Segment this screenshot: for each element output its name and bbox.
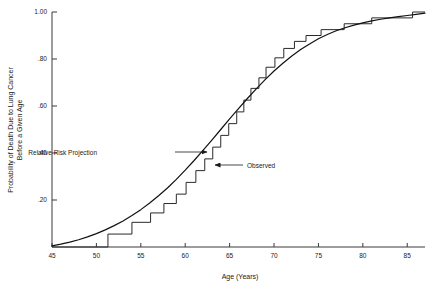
annotations: Relative Risk ProjectionObserved: [28, 149, 275, 169]
x-tick-label: 80: [359, 252, 367, 259]
x-tick-label: 60: [182, 252, 190, 259]
x-axis-title: Age (Years): [222, 273, 259, 281]
y-axis-title-line1: Probability of Death Due to Lung Cancer: [7, 66, 15, 192]
y-tick-label: .80: [38, 55, 47, 62]
x-tick-label: 65: [226, 252, 234, 259]
y-tick-label: .20: [38, 196, 47, 203]
relative-risk-projection-curve: [52, 13, 425, 246]
annotation-relative-risk-projection: Relative Risk Projection: [28, 149, 207, 157]
x-tick-labels: 455055606570758085: [48, 252, 411, 259]
tick-marks: [52, 12, 407, 247]
x-tick-label: 70: [270, 252, 278, 259]
y-tick-labels: .20.40.60.801.00: [34, 8, 47, 203]
annotation-label: Relative Risk Projection: [28, 149, 97, 157]
x-tick-label: 75: [315, 252, 323, 259]
x-tick-label: 55: [137, 252, 145, 259]
x-tick-label: 85: [404, 252, 412, 259]
y-axis-title-line2: Before a Given Age: [16, 100, 24, 161]
x-tick-label: 50: [93, 252, 101, 259]
lung-cancer-probability-chart: 455055606570758085 .20.40.60.801.00 Rela…: [0, 0, 438, 286]
y-tick-label: 1.00: [34, 8, 47, 15]
annotation-observed: Observed: [215, 162, 276, 169]
y-tick-label: .60: [38, 102, 47, 109]
figure-container: 455055606570758085 .20.40.60.801.00 Rela…: [0, 0, 438, 286]
observed-step-curve: [52, 12, 425, 247]
x-tick-label: 45: [48, 252, 56, 259]
axes: [52, 12, 425, 247]
annotation-label: Observed: [247, 162, 276, 169]
